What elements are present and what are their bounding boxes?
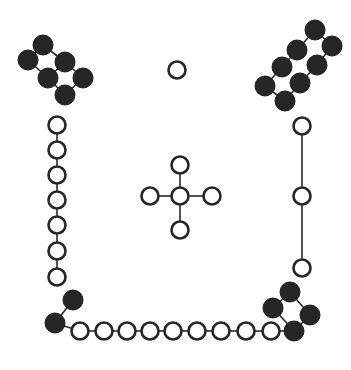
open-ring-icon: [49, 167, 66, 184]
open-ring-icon: [172, 188, 189, 205]
open-ring-icon: [49, 217, 66, 234]
filled-bead-icon: [305, 20, 325, 40]
open-ring-icon: [49, 117, 66, 134]
filled-bead-icon: [272, 57, 292, 77]
open-ring-icon: [49, 243, 66, 260]
bead-diagram: [0, 0, 351, 370]
open-ring-icon: [49, 269, 66, 286]
filled-bead-icon: [33, 35, 53, 55]
filled-bead-icon: [284, 321, 304, 341]
filled-bead-icon: [280, 282, 300, 302]
open-ring-icon: [142, 323, 159, 340]
filled-bead-icon: [73, 68, 93, 88]
open-ring-icon: [142, 188, 159, 205]
filled-bead-icon: [38, 68, 58, 88]
filled-bead-icon: [45, 313, 65, 333]
filled-bead-icon: [55, 52, 75, 72]
open-ring-icon: [238, 323, 255, 340]
filled-bead-icon: [307, 55, 327, 75]
filled-bead-icon: [255, 76, 275, 96]
open-ring-icon: [49, 192, 66, 209]
diagram-canvas: [0, 0, 351, 370]
open-ring-icon: [169, 62, 186, 79]
filled-bead-icon: [275, 91, 295, 111]
filled-bead-icon: [287, 40, 307, 60]
filled-bead-icon: [300, 305, 320, 325]
open-ring-icon: [294, 260, 311, 277]
open-ring-icon: [294, 118, 311, 135]
filled-bead-icon: [322, 36, 342, 56]
filled-bead-icon: [18, 50, 38, 70]
open-ring-icon: [96, 323, 113, 340]
filled-bead-icon: [290, 73, 310, 93]
open-ring-icon: [189, 323, 206, 340]
open-ring-icon: [172, 157, 189, 174]
open-ring-icon: [172, 222, 189, 239]
filled-bead-icon: [263, 298, 283, 318]
open-ring-icon: [72, 323, 89, 340]
open-ring-icon: [213, 323, 230, 340]
open-ring-icon: [294, 188, 311, 205]
open-ring-icon: [263, 323, 280, 340]
open-ring-icon: [49, 142, 66, 159]
filled-bead-icon: [63, 290, 83, 310]
filled-bead-icon: [55, 85, 75, 105]
open-ring-icon: [119, 323, 136, 340]
open-ring-icon: [204, 188, 221, 205]
open-ring-icon: [165, 323, 182, 340]
